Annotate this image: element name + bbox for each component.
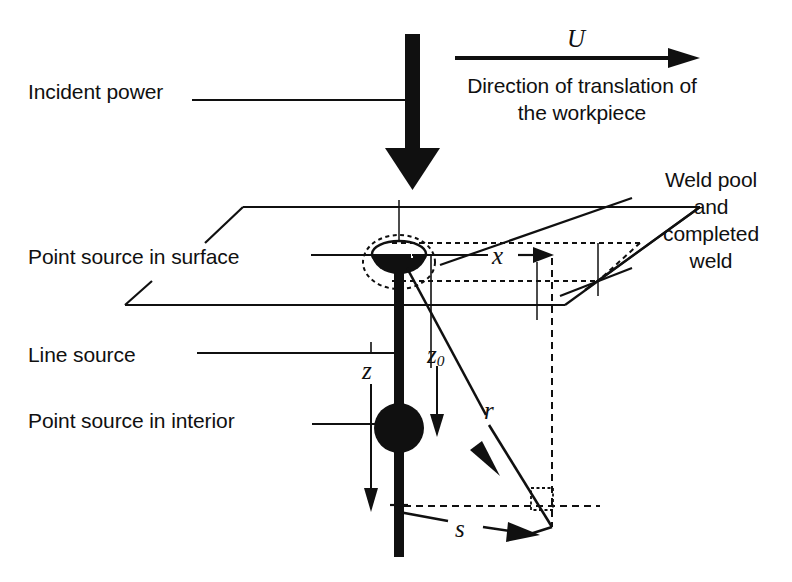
- weld-pool-line-4: weld: [690, 249, 733, 272]
- weld-pool-line-3: completed: [663, 222, 759, 245]
- velocity-symbol-U: U: [567, 26, 585, 51]
- interior-point-source-dot: [374, 403, 424, 453]
- z0-depth-symbol: z0: [427, 342, 444, 369]
- z-coordinate-symbol: z: [362, 358, 372, 383]
- r-distance-arrow: [407, 268, 552, 527]
- weld-pool-leader-lower: [560, 268, 632, 296]
- direction-line-2: the workpiece: [518, 101, 646, 124]
- weld-pool-and-completed-weld-label: Weld pool and completed weld: [636, 166, 786, 274]
- welding-heat-source-figure: Incident power Direction of translation …: [0, 0, 792, 582]
- x-coordinate-symbol: x: [492, 243, 503, 268]
- z0-subscript: 0: [437, 352, 445, 369]
- line-source-label: Line source: [28, 341, 135, 368]
- s-surface-distance-symbol: s: [455, 516, 465, 541]
- weld-pool-line-2: and: [694, 195, 729, 218]
- incident-power-label: Incident power: [28, 78, 163, 105]
- s-distance-arrow: [390, 505, 552, 542]
- weld-pool-line-1: Weld pool: [665, 168, 757, 191]
- direction-of-translation-label: Direction of translation of the workpiec…: [432, 72, 732, 126]
- r-radial-distance-symbol: r: [484, 398, 494, 423]
- point-source-in-interior-label: Point source in interior: [28, 407, 235, 434]
- direction-line-1: Direction of translation of: [467, 74, 697, 97]
- point-source-in-surface-label: Point source in surface: [28, 243, 239, 270]
- projection-dashed-lines: [404, 258, 600, 527]
- z0-depth-arrow: [430, 366, 444, 437]
- z0-base: z: [427, 341, 437, 368]
